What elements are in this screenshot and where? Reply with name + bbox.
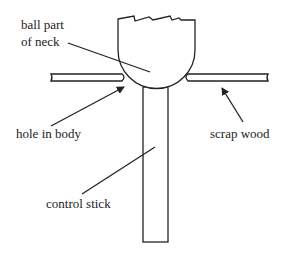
label-control-stick: control stick — [46, 196, 111, 212]
joystick-diagram: ball part of neck hole in body scrap woo… — [0, 0, 286, 256]
left-scrap-wood — [51, 74, 124, 81]
hole-arrow — [51, 87, 124, 126]
ball-part-of-neck — [118, 16, 195, 89]
scrap-arrow — [222, 88, 243, 122]
label-ball-part: ball part — [21, 17, 64, 33]
right-scrap-wood — [186, 74, 268, 81]
label-scrap-wood: scrap wood — [210, 126, 270, 142]
control-stick — [143, 87, 168, 242]
label-of-neck: of neck — [21, 34, 60, 50]
label-hole-in-body: hole in body — [16, 126, 81, 142]
